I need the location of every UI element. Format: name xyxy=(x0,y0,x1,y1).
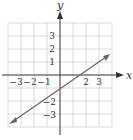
svg-text:−3: −3 xyxy=(9,77,23,87)
line-start-arrow-icon xyxy=(9,117,17,124)
svg-text:3: 3 xyxy=(96,77,102,87)
x-axis-arrow-icon xyxy=(116,72,124,78)
svg-text:−2: −2 xyxy=(43,97,56,107)
line-end-arrow-icon xyxy=(103,54,110,61)
x-axis-label: x xyxy=(126,69,133,82)
svg-text:−2: −2 xyxy=(23,77,36,87)
x-tick-labels: −3 −2 −1 2 3 xyxy=(9,77,102,87)
y-axis-label: y xyxy=(56,0,64,12)
svg-text:−1: −1 xyxy=(37,77,50,87)
y-axis: y xyxy=(56,0,64,135)
svg-text:−3: −3 xyxy=(43,110,57,120)
svg-text:2: 2 xyxy=(83,77,89,87)
coordinate-plane: x y −3 −2 −1 2 3 3 2 1 −2 −3 xyxy=(0,0,133,140)
svg-text:1: 1 xyxy=(49,57,55,67)
svg-text:3: 3 xyxy=(49,31,55,41)
y-axis-arrow-icon xyxy=(57,11,63,19)
svg-text:2: 2 xyxy=(49,44,55,54)
